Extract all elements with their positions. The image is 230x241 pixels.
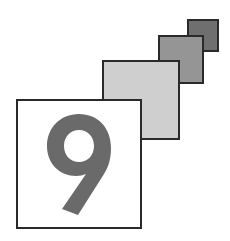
number-nine-icon bbox=[44, 112, 114, 216]
